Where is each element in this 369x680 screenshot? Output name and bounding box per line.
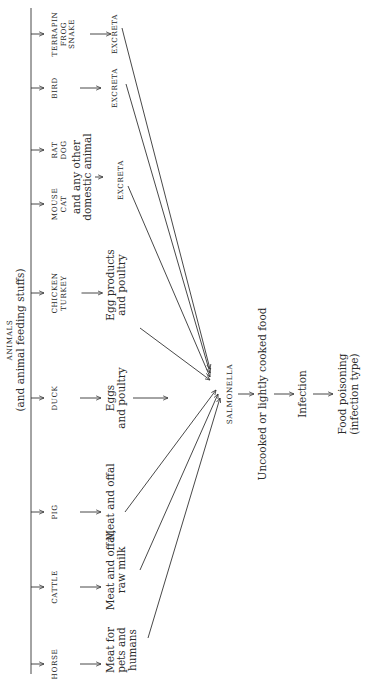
- arrow-excreta-bird-to-salmonella: [126, 84, 210, 373]
- animal-terrapin-line3: SNAKE: [67, 19, 76, 49]
- excreta-bird: EXCRETA: [110, 68, 119, 108]
- salmonella-label: SALMONELLA: [225, 364, 234, 425]
- arrow-excreta-reptile-to-salmonella: [124, 36, 210, 369]
- arrow-pig-meat-to-salmonella: [125, 390, 216, 512]
- header-title: ANIMALS: [5, 320, 14, 362]
- products-row: Meat forpets andhumansMeat and offal,raw…: [104, 249, 138, 673]
- arrow-excreta-domestic-to-salmonella: [128, 186, 210, 377]
- product-cattle-meat-line2: raw milk: [115, 546, 127, 593]
- animals-row: HORSECATTLEPIGDUCKCHICKENTURKEYMOUSECATR…: [31, 12, 111, 680]
- arrow-cattle-meat-to-salmonella: [140, 394, 218, 570]
- animal-bird-line1: BIRD: [50, 77, 59, 99]
- animal-mouse-line2: CAT: [59, 196, 68, 213]
- product-pets-meat-line3: humans: [126, 629, 138, 671]
- animal-cattle-line1: CATTLE: [50, 570, 59, 604]
- product-pig-meat-line1: Meat and offal: [104, 463, 116, 541]
- animal-chicken-line2: TURKEY: [59, 275, 68, 310]
- converging-arrows: [122, 28, 220, 638]
- animal-rat-line2: DOG: [59, 140, 68, 159]
- animal-horse-line1: HORSE: [50, 649, 59, 680]
- excreta-domestic: EXCRETA: [116, 160, 125, 200]
- product-duck-eggs-line2: and poultry: [115, 367, 127, 428]
- arrow-pets-meat-to-salmonella: [148, 398, 220, 638]
- domestic-note-line2: domestic animal: [81, 133, 93, 221]
- outcome-chain: Uncooked or lightly cooked food Infectio…: [238, 307, 360, 480]
- diagram-canvas: ANIMALS (and animal feeding stuffs) HORS…: [0, 0, 369, 680]
- chain-food: Uncooked or lightly cooked food: [256, 307, 268, 480]
- chain-infection: Infection: [296, 370, 308, 418]
- animal-pig-line1: PIG: [50, 504, 59, 519]
- header-subtitle: (and animal feeding stuffs): [14, 268, 26, 411]
- chain-outcome-line1: Food poisoning: [336, 353, 348, 434]
- chain-outcome-line2: (infection type): [348, 353, 360, 434]
- excreta-reptile-hook: [122, 28, 124, 36]
- product-chicken-eggs-line2: and poultry: [115, 254, 127, 315]
- animal-duck-line1: DUCK: [50, 385, 59, 410]
- header: ANIMALS (and animal feeding stuffs): [5, 268, 26, 411]
- excreta-reptile: EXCRETA: [110, 14, 119, 54]
- excreta-row: EXCRETAEXCRETAEXCRETA: [110, 14, 125, 200]
